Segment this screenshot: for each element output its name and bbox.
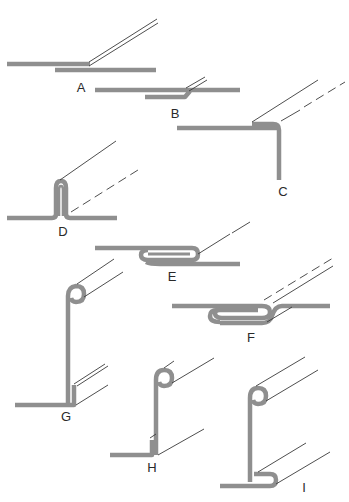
panel-g-edge-line <box>77 259 114 284</box>
panel-c-vertical-plate <box>252 124 279 180</box>
panel-i: I <box>220 357 330 495</box>
panel-h: H <box>110 358 214 475</box>
panel-c-hidden-edge-line <box>304 82 345 107</box>
panel-c: C <box>177 80 345 199</box>
panel-i-label: I <box>302 480 306 495</box>
panel-g-edge-line <box>74 364 105 384</box>
panel-a-label: A <box>77 80 86 95</box>
panel-b-label: B <box>171 106 180 121</box>
panel-d-edge-line <box>60 141 116 180</box>
panel-c-edge-line <box>252 80 318 122</box>
panel-d-hidden-edge-line <box>71 170 138 212</box>
seam-diagram: A B C D E <box>0 0 349 502</box>
panel-h-curl-and-upright <box>156 370 172 455</box>
panel-f: F <box>172 258 333 345</box>
panel-e-edge-line <box>198 234 230 254</box>
panel-f-hidden-edge-line <box>264 258 333 300</box>
panel-h-label: H <box>147 460 156 475</box>
panel-c-edge-line <box>281 110 300 121</box>
panel-g-edge-line <box>76 385 108 405</box>
panel-e-bottom-sheet <box>146 262 240 264</box>
panel-h-edge-line <box>172 358 214 383</box>
panel-e-label: E <box>168 269 177 284</box>
panel-g-label: G <box>61 409 71 424</box>
panel-i-curl-and-upright <box>250 388 266 482</box>
panel-i-edge-line <box>258 443 306 472</box>
panel-h-base <box>110 440 152 455</box>
panel-d-inner-sheet <box>59 186 63 216</box>
panel-g-edge-line <box>77 366 108 386</box>
panel-d-label: D <box>58 224 67 239</box>
panel-h-edge-line <box>158 429 204 455</box>
panel-b: B <box>95 77 240 121</box>
panel-a-edge-line <box>89 23 158 66</box>
panel-g-base-flange <box>15 385 74 405</box>
panel-a-edge-line <box>89 19 157 62</box>
panel-f-edge-line <box>273 266 333 303</box>
panel-c-label: C <box>278 184 287 199</box>
panel-i-edge-line <box>266 370 318 401</box>
panel-f-label: F <box>247 330 255 345</box>
panel-g: G <box>15 259 123 424</box>
panel-a: A <box>7 19 158 95</box>
panel-e-edge-line <box>232 222 250 233</box>
panel-d: D <box>7 141 138 239</box>
panel-h-edge-line <box>164 361 174 368</box>
